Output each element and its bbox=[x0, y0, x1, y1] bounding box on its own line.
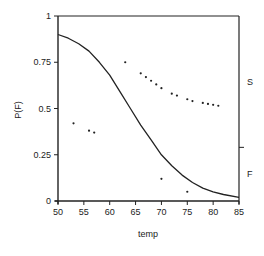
data-point bbox=[191, 100, 193, 102]
data-point bbox=[93, 131, 95, 133]
data-point bbox=[124, 61, 126, 63]
y-axis-title: P(F) bbox=[13, 101, 23, 119]
data-point bbox=[145, 76, 147, 78]
data-point bbox=[160, 87, 162, 89]
data-point bbox=[212, 104, 214, 106]
right-axis-label-f: F bbox=[247, 169, 253, 179]
y-tick-label: 1 bbox=[46, 11, 51, 21]
chart: 5055606570758085 00.250.50.751 SF temp P… bbox=[0, 0, 264, 256]
data-point bbox=[217, 105, 219, 107]
x-axis-title: temp bbox=[138, 229, 158, 239]
x-tick-label: 70 bbox=[156, 207, 166, 217]
data-point bbox=[72, 122, 74, 124]
x-tick-label: 85 bbox=[234, 207, 244, 217]
x-tick-label: 75 bbox=[182, 207, 192, 217]
fitted-curve bbox=[58, 35, 239, 198]
x-tick-label: 55 bbox=[79, 207, 89, 217]
y-tick-label: 0 bbox=[46, 196, 51, 206]
plot-frame bbox=[55, 16, 239, 204]
x-tick-label: 60 bbox=[105, 207, 115, 217]
x-axis: 5055606570758085 bbox=[53, 201, 244, 217]
data-point bbox=[186, 98, 188, 100]
data-point bbox=[207, 103, 209, 105]
data-point bbox=[155, 83, 157, 85]
x-tick-label: 65 bbox=[131, 207, 141, 217]
data-point bbox=[176, 94, 178, 96]
data-point bbox=[171, 93, 173, 95]
data-point bbox=[186, 191, 188, 193]
data-point bbox=[88, 130, 90, 132]
right-axis-label-s: S bbox=[247, 77, 253, 87]
data-point bbox=[150, 80, 152, 82]
y-tick-label: 0.25 bbox=[33, 150, 51, 160]
x-tick-label: 80 bbox=[208, 207, 218, 217]
y-axis: 00.250.50.751 bbox=[33, 11, 58, 206]
y-tick-label: 0.5 bbox=[38, 104, 51, 114]
right-axis: SF bbox=[239, 77, 253, 180]
data-points bbox=[72, 61, 219, 193]
x-tick-label: 50 bbox=[53, 207, 63, 217]
data-point bbox=[160, 178, 162, 180]
y-tick-label: 0.75 bbox=[33, 57, 51, 67]
data-point bbox=[202, 102, 204, 104]
data-point bbox=[140, 72, 142, 74]
